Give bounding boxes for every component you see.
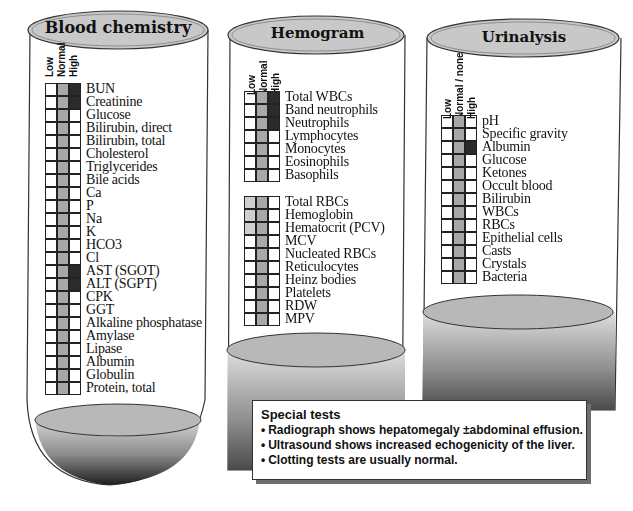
cell-normal bbox=[57, 252, 69, 265]
cell-normal bbox=[57, 343, 69, 356]
cell-low bbox=[244, 169, 256, 182]
cell-normal bbox=[256, 248, 268, 261]
test-label: Bacteria bbox=[482, 269, 527, 285]
cell-normal bbox=[57, 239, 69, 252]
cell-low bbox=[441, 128, 453, 141]
cell-low bbox=[45, 278, 57, 291]
cell-low bbox=[244, 222, 256, 235]
cell-low bbox=[441, 206, 453, 219]
tube-title: Blood chemistry bbox=[30, 18, 206, 37]
cell-low bbox=[244, 248, 256, 261]
cell-normal bbox=[57, 96, 69, 109]
bullet-icon: • bbox=[261, 453, 265, 467]
cell-normal bbox=[453, 232, 465, 245]
cell-low bbox=[45, 369, 57, 382]
cell-high bbox=[465, 167, 477, 180]
cell-normal bbox=[453, 167, 465, 180]
cell-low bbox=[244, 261, 256, 274]
cell-low bbox=[45, 109, 57, 122]
cell-high bbox=[268, 143, 280, 156]
cell-high bbox=[69, 174, 81, 187]
tube-title: Hemogram bbox=[230, 24, 405, 42]
cell-low bbox=[244, 196, 256, 209]
cell-normal bbox=[256, 261, 268, 274]
cell-high bbox=[69, 278, 81, 291]
cell-normal bbox=[256, 156, 268, 169]
cell-low bbox=[441, 180, 453, 193]
column-header-high: High bbox=[69, 55, 79, 77]
cell-normal bbox=[256, 313, 268, 326]
cell-low bbox=[45, 330, 57, 343]
cell-high bbox=[268, 91, 280, 104]
cell-low bbox=[244, 235, 256, 248]
cell-high bbox=[69, 187, 81, 200]
cell-normal bbox=[256, 274, 268, 287]
cell-low bbox=[441, 219, 453, 232]
cell-low bbox=[45, 213, 57, 226]
cell-low bbox=[244, 104, 256, 117]
cell-low bbox=[441, 258, 453, 271]
column-header-normal-none: Normal / none bbox=[455, 52, 465, 119]
cell-high bbox=[69, 122, 81, 135]
cell-normal bbox=[57, 317, 69, 330]
cell-normal bbox=[256, 196, 268, 209]
cell-normal bbox=[256, 222, 268, 235]
cell-high bbox=[268, 104, 280, 117]
cell-high bbox=[69, 330, 81, 343]
cell-low bbox=[45, 252, 57, 265]
cell-high bbox=[69, 226, 81, 239]
cell-high bbox=[465, 271, 477, 284]
cell-high bbox=[69, 356, 81, 369]
cell-normal bbox=[57, 330, 69, 343]
cell-normal bbox=[57, 226, 69, 239]
cell-normal bbox=[57, 265, 69, 278]
cell-normal bbox=[57, 109, 69, 122]
cell-high bbox=[69, 317, 81, 330]
test-label: Protein, total bbox=[86, 380, 156, 396]
cell-high bbox=[268, 300, 280, 313]
cell-normal bbox=[57, 135, 69, 148]
cell-normal bbox=[256, 91, 268, 104]
cell-high bbox=[69, 135, 81, 148]
cell-high bbox=[465, 141, 477, 154]
cell-high bbox=[465, 193, 477, 206]
cell-normal bbox=[256, 104, 268, 117]
cell-low bbox=[244, 274, 256, 287]
cell-low bbox=[244, 287, 256, 300]
cell-normal bbox=[57, 161, 69, 174]
cell-normal bbox=[57, 213, 69, 226]
cell-low bbox=[45, 343, 57, 356]
special-test-item: •Radiograph shows hepatomegaly ±abdomina… bbox=[261, 423, 578, 438]
cell-normal bbox=[256, 235, 268, 248]
cell-high bbox=[69, 96, 81, 109]
cell-high bbox=[268, 235, 280, 248]
cell-high bbox=[465, 206, 477, 219]
cell-low bbox=[45, 226, 57, 239]
cell-high bbox=[268, 130, 280, 143]
cell-low bbox=[244, 209, 256, 222]
cell-low bbox=[441, 167, 453, 180]
cell-low bbox=[45, 122, 57, 135]
cell-high bbox=[69, 148, 81, 161]
cell-normal bbox=[453, 141, 465, 154]
cell-high bbox=[465, 245, 477, 258]
cell-low bbox=[45, 148, 57, 161]
cell-low bbox=[45, 135, 57, 148]
test-label: Basophils bbox=[285, 167, 338, 183]
cell-normal bbox=[256, 169, 268, 182]
cell-normal bbox=[256, 143, 268, 156]
cell-low bbox=[441, 115, 453, 128]
cell-low bbox=[45, 96, 57, 109]
column-header-normal: Normal bbox=[259, 61, 269, 95]
cell-normal bbox=[57, 291, 69, 304]
tube-blood-chemistry: Blood chemistry Low Normal High BUNCreat… bbox=[0, 0, 220, 511]
tube-title: Urinalysis bbox=[427, 28, 621, 46]
cell-high bbox=[69, 161, 81, 174]
cell-high bbox=[69, 109, 81, 122]
cell-low bbox=[244, 143, 256, 156]
cell-high bbox=[268, 222, 280, 235]
cell-high bbox=[268, 117, 280, 130]
cell-normal bbox=[57, 278, 69, 291]
cell-high bbox=[69, 304, 81, 317]
cell-high bbox=[268, 261, 280, 274]
